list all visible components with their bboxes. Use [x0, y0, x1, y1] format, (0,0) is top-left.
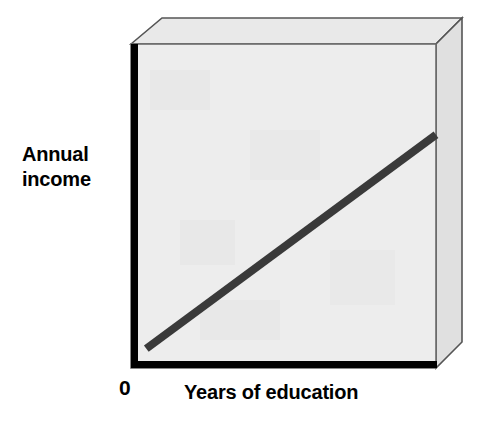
box-side-face [436, 18, 462, 368]
chart-graphic [0, 0, 485, 422]
chart-container: Annual income 0 Years of education [0, 0, 485, 422]
origin-tick-label: 0 [119, 376, 130, 399]
x-axis-label: Years of education [184, 381, 358, 404]
y-axis-label: Annual income [22, 142, 126, 192]
box-top-face [131, 18, 462, 44]
